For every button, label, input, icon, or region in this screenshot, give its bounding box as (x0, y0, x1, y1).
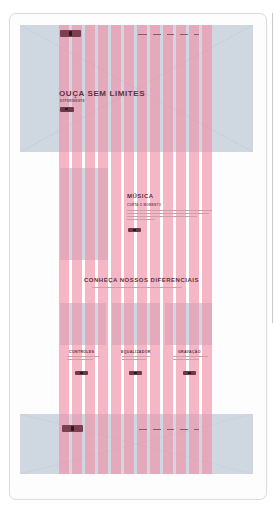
card-image-equalizador (112, 303, 160, 345)
music-title: MÚSICA (127, 193, 154, 199)
features-intro-text (92, 287, 182, 290)
card-body-text (173, 356, 208, 362)
wireframe-page: INÍCIO MÚSICA CONTATO SOBRE LOJA OUÇA SE… (20, 25, 253, 485)
nav-item[interactable]: INÍCIO (139, 429, 147, 430)
music-body-text (127, 210, 212, 222)
footer-image-placeholder (20, 414, 253, 474)
nav-item[interactable]: SOBRE (180, 429, 188, 430)
nav-item[interactable]: MÚSICA (153, 429, 161, 430)
nav-item[interactable]: INÍCIO (138, 34, 147, 35)
header-logo[interactable] (60, 30, 81, 37)
hero-cta-button[interactable] (60, 107, 74, 112)
card-button[interactable] (129, 371, 142, 375)
footer-logo[interactable] (62, 425, 83, 432)
card-body-text (122, 356, 150, 362)
adjacent-artboard-edge (272, 13, 274, 323)
music-image-placeholder (60, 168, 108, 260)
nav-item[interactable]: MÚSICA (153, 34, 161, 35)
card-title: EQUALIZADOR (121, 350, 151, 354)
card-image-controles (60, 303, 106, 345)
image-placeholder-cross-icon (20, 414, 253, 474)
card-body-text (67, 356, 100, 362)
features-title: CONHEÇA NOSSOS DIFERENCIAIS (84, 277, 199, 283)
card-button[interactable] (75, 371, 88, 375)
card-button[interactable] (183, 371, 196, 375)
nav-item[interactable]: LOJA (194, 429, 199, 430)
hero-title: OUÇA SEM LIMITES (59, 89, 145, 98)
nav-item[interactable]: SOBRE (180, 34, 188, 35)
music-subtitle: CURTA O MOMENTO (127, 203, 161, 207)
card-title: CONTROLES (69, 350, 94, 354)
nav-item[interactable]: CONTATO (167, 429, 174, 430)
hero-subtitle: EXPERIMENTE (60, 99, 85, 103)
nav-item[interactable]: LOJA (194, 34, 199, 35)
footer-nav: INÍCIO MÚSICA CONTATO SOBRE LOJA (139, 426, 205, 430)
header-nav: INÍCIO MÚSICA CONTATO SOBRE LOJA (138, 31, 205, 35)
card-title: GRAVAÇÃO (178, 350, 201, 354)
card-image-gravacao (165, 303, 212, 345)
music-cta-button[interactable] (128, 228, 141, 232)
nav-item[interactable]: CONTATO (167, 34, 174, 35)
